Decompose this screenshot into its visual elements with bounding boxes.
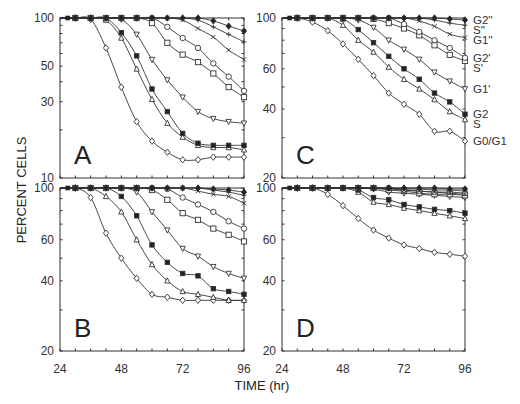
marker-square-open (226, 232, 231, 237)
marker-circle-open (226, 219, 231, 224)
marker-circle-open (401, 21, 406, 26)
marker-triangle-down-open (417, 57, 422, 62)
marker-square-filled (134, 54, 138, 58)
marker-square-filled (242, 292, 246, 296)
marker-diamond-open (371, 227, 376, 233)
marker-circle-open (211, 61, 216, 66)
series-curve (60, 187, 244, 294)
marker-circle-open (180, 195, 185, 200)
marker-square-filled (463, 211, 467, 215)
marker-diamond-open (401, 101, 406, 107)
marker-triangle-open (340, 22, 345, 27)
y-tick-label: 40 (41, 274, 55, 288)
marker-triangle-down-open (386, 38, 391, 43)
marker-square-filled (242, 143, 246, 147)
marker-square-open (211, 71, 216, 76)
marker-square-filled (371, 195, 375, 199)
marker-diamond-open (195, 157, 200, 163)
marker-diamond-open (165, 149, 170, 155)
y-axis-title: PERCENT CELLS (14, 136, 29, 243)
legend-label: G1' (473, 83, 491, 95)
marker-circle-open (447, 45, 452, 50)
marker-square-open (447, 52, 452, 57)
marker-diamond-open (417, 245, 422, 251)
marker-diamond-open (447, 251, 452, 257)
marker-triangle-open (447, 109, 452, 114)
marker-triangle-open (149, 96, 154, 101)
marker-diamond-open (432, 249, 437, 255)
marker-square-filled (371, 41, 375, 45)
marker-diamond-open (325, 28, 330, 34)
marker-triangle-down-open (401, 47, 406, 52)
series-g0-g1 (282, 15, 468, 144)
marker-square-filled (356, 27, 360, 31)
marker-triangle-open (134, 66, 139, 71)
marker-square-open (165, 197, 170, 202)
y-tick-label: 40 (263, 274, 277, 288)
marker-square-filled (417, 77, 421, 81)
legend: G2''S''G1''G2'S'G1'G2SG0/G1 (473, 14, 507, 147)
marker-square-open (180, 52, 185, 57)
marker-square-filled (432, 91, 436, 95)
marker-diamond-filled (447, 16, 452, 22)
marker-circle-open (226, 74, 231, 79)
marker-square-filled (463, 112, 467, 116)
marker-x (432, 24, 436, 28)
y-tick-label: 100 (34, 181, 54, 195)
marker-x (211, 35, 215, 39)
x-tick-label: 48 (115, 362, 129, 376)
series-s (60, 15, 247, 152)
marker-circle-open (417, 29, 422, 34)
marker-square-open (211, 226, 216, 231)
marker-diamond-open (211, 154, 216, 160)
marker-diamond-open (432, 128, 437, 134)
marker-x (196, 26, 200, 30)
marker-square-filled (165, 260, 169, 264)
y-tick-label: 40 (263, 102, 277, 116)
marker-triangle-down-open (241, 121, 246, 126)
marker-circle-open (462, 55, 467, 60)
y-tick-label: 60 (41, 233, 55, 247)
legend-label: S (473, 118, 481, 130)
series-curve (60, 17, 244, 146)
marker-square-filled (196, 141, 200, 145)
y-tick-label: 100 (256, 11, 276, 25)
marker-square-filled (448, 208, 452, 212)
marker-square-filled (402, 202, 406, 206)
panel-letter: D (296, 313, 315, 343)
marker-circle-open (165, 24, 170, 29)
marker-diamond-open (103, 45, 108, 51)
marker-circle-open (195, 202, 200, 207)
series-curve (60, 18, 244, 123)
y-tick-label: 20 (263, 344, 277, 358)
y-tick-label: 20 (41, 344, 55, 358)
panel-letter: B (74, 313, 91, 343)
marker-diamond-open (241, 154, 246, 160)
marker-triangle-open (134, 237, 139, 242)
marker-plus (211, 24, 216, 29)
marker-triangle-down-open (195, 109, 200, 114)
marker-square-filled (150, 87, 154, 91)
marker-x (226, 48, 230, 52)
series-g1- (60, 16, 247, 126)
marker-diamond-filled (211, 18, 216, 24)
marker-square-filled (119, 30, 123, 34)
start-marker (65, 186, 70, 191)
marker-x (448, 32, 452, 36)
marker-triangle-down-open (462, 87, 467, 92)
series-g2- (60, 15, 247, 93)
marker-square-filled (387, 54, 391, 58)
panel-b: 20406010024487296B (34, 181, 251, 376)
marker-triangle-down-open (180, 246, 185, 251)
panel-d: 20406010024487296D (256, 181, 472, 376)
marker-square-filled (165, 109, 169, 113)
y-tick-label: 50 (41, 59, 55, 73)
marker-triangle-down-open (447, 79, 452, 84)
marker-diamond-open (356, 215, 361, 221)
x-axis-title: TIME (hr) (235, 378, 290, 393)
y-tick-label: 60 (263, 62, 277, 76)
marker-plus (226, 32, 231, 37)
marker-square-filled (134, 214, 138, 218)
marker-triangle-open (103, 193, 108, 198)
marker-triangle-down-open (371, 25, 376, 30)
